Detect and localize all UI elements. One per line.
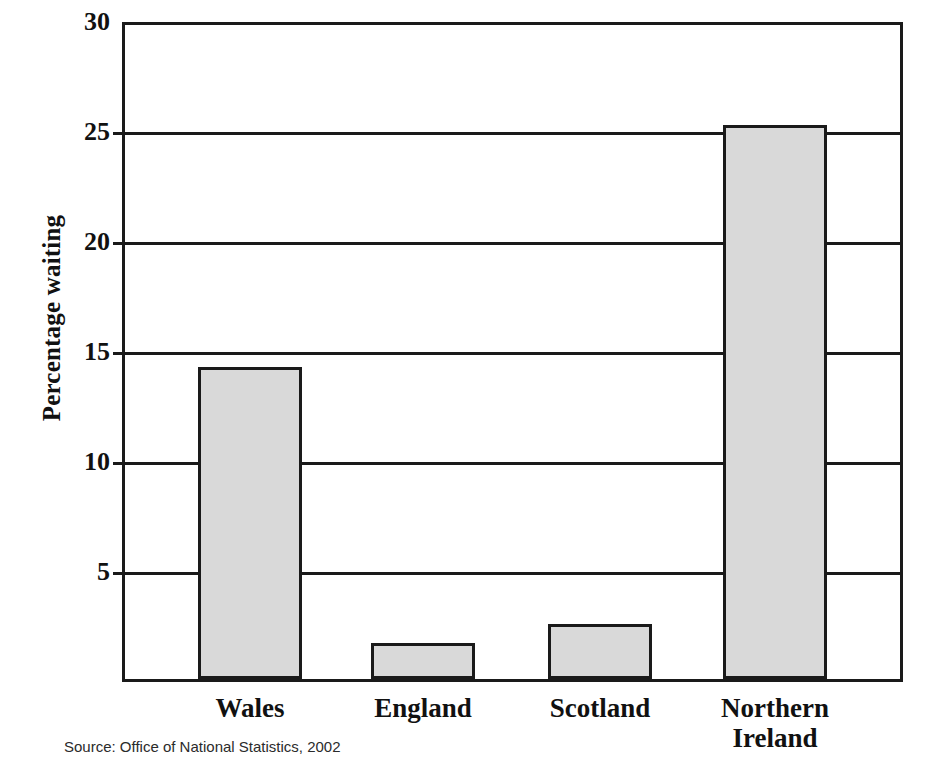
y-tick-label-5: 5 (52, 559, 110, 585)
x-category-label-england: England (328, 693, 518, 723)
y-axis-title: Percentage waiting (38, 188, 66, 448)
source-note: Source: Office of National Statistics, 2… (64, 738, 341, 755)
plot-area (122, 22, 903, 682)
y-tick-label-20: 20 (52, 229, 110, 255)
x-category-label-northern-ireland-line2: Ireland (680, 723, 870, 753)
bar-wales[interactable] (198, 367, 302, 679)
bar-chart-figure: Percentage waiting 30 25 20 15 10 5 Wale… (0, 0, 926, 780)
bar-england[interactable] (371, 643, 475, 679)
x-category-label-wales: Wales (155, 693, 345, 723)
x-category-label-northern-ireland-line1: Northern (680, 693, 870, 723)
bar-northern-ireland[interactable] (723, 125, 827, 679)
x-category-label-scotland: Scotland (505, 693, 695, 723)
y-tick-label-15: 15 (52, 339, 110, 365)
y-tick-label-30: 30 (52, 9, 110, 35)
bar-scotland[interactable] (548, 624, 652, 679)
y-tick-label-25: 25 (52, 119, 110, 145)
x-category-label-northern-ireland: Northern Ireland (680, 693, 870, 753)
y-tick-label-10: 10 (52, 449, 110, 475)
